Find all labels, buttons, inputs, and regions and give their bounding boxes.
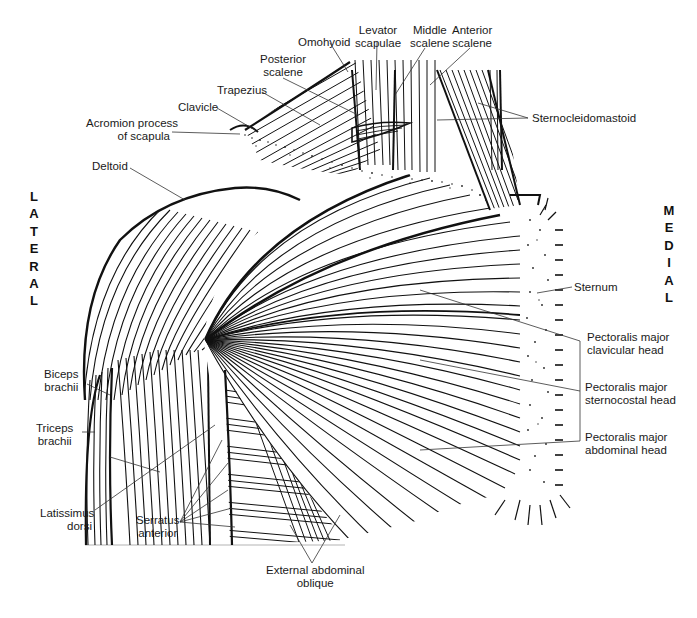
chest-muscle-illustration	[0, 0, 697, 618]
medial-orientation-label: MEDIAL	[661, 203, 675, 307]
label-omohyoid: Omohyoid	[298, 36, 350, 49]
label-clavicle: Clavicle	[178, 101, 218, 114]
sternum-bone	[495, 198, 570, 525]
label-triceps-brachii: Tricepsbrachii	[36, 422, 73, 448]
anatomy-figure: LATERAL MEDIAL Omohyoid Levatorscapulae …	[0, 0, 697, 618]
label-middle-scalene: Middlescalene	[410, 24, 450, 50]
label-pectoralis-sternocostal-head: Pectoralis majorsternocostal head	[585, 381, 676, 407]
label-levator-scapulae: Levatorscapulae	[355, 24, 401, 50]
serratus-and-oblique	[225, 390, 342, 546]
label-external-abdominal-oblique: External abdominaloblique	[266, 564, 364, 590]
lateral-orientation-label: LATERAL	[26, 189, 40, 311]
label-biceps-brachii: Bicepsbrachii	[44, 368, 79, 394]
label-serratus-anterior: Serratusanterior	[136, 514, 179, 540]
label-anterior-scalene: Anteriorscalene	[452, 24, 492, 50]
label-pectoralis-abdominal-head: Pectoralis majorabdominal head	[585, 431, 667, 457]
label-pectoralis-clavicular-head: Pectoralis majorclavicular head	[587, 331, 669, 357]
label-posterior-scalene: Posteriorscalene	[260, 53, 306, 79]
label-trapezius: Trapezius	[217, 84, 267, 97]
label-sternocleidomastoid: Sternocleidomastoid	[532, 112, 636, 125]
pectoralis-major-muscle	[205, 175, 520, 540]
label-acromion-process: Acromion processof scapula	[86, 117, 170, 143]
label-deltoid: Deltoid	[92, 160, 128, 173]
label-latissimus-dorsi: Latissimusdorsi	[40, 507, 92, 533]
label-sternum: Sternum	[574, 281, 617, 294]
